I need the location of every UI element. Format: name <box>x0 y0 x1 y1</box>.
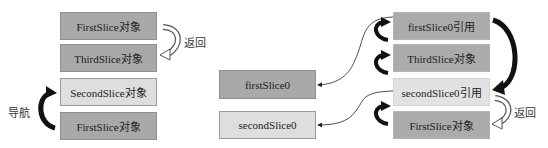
right-nav-arrow-1-icon <box>376 17 391 40</box>
right-big-arrow-icon <box>492 20 515 95</box>
right-return-arrow-icon <box>492 98 508 129</box>
arrows-layer <box>0 0 548 148</box>
left-navigate-arrow-icon <box>41 86 57 128</box>
right-nav-arrow-2-icon <box>376 50 391 73</box>
left-return-arrow-icon <box>160 27 178 60</box>
right-nav-arrow-3-icon <box>376 101 391 124</box>
